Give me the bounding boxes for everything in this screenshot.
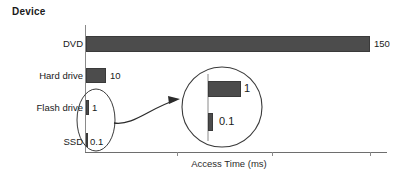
magnified-bar-flash-drive [208,81,241,97]
x-axis-tick [370,152,371,156]
x-axis-tick [272,152,273,156]
y-axis-title: Device [12,6,45,17]
category-label-ssd: SSD [63,136,83,147]
x-axis-tick [177,152,178,156]
x-axis-title: Access Time (ms) [0,158,402,169]
callout-arrow-head [168,96,180,104]
value-label-ssd: 0.1 [90,136,103,147]
callout-arrow-line [114,100,176,123]
y-axis-line [85,25,86,153]
magnified-bar-ssd [208,113,213,131]
bar-flash-drive [86,100,89,115]
bar-ssd [86,133,88,147]
x-axis-title-text: Access Time (ms) [191,158,266,169]
x-axis-line [85,152,387,153]
magnified-value-ssd: 0.1 [219,115,234,127]
category-label-hard-drive: Hard drive [39,70,83,81]
value-label-dvd: 150 [374,38,390,49]
bar-hard-drive [86,68,106,83]
magnified-value-flash-drive: 1 [244,82,250,94]
bar-dvd [86,36,370,52]
chart-figure: Device DVD Hard drive Flash drive SSD 15… [0,0,402,188]
magnified-circle [182,67,262,147]
value-label-flash-drive: 1 [92,102,97,113]
category-label-flash-drive: Flash drive [37,102,83,113]
value-label-hard-drive: 10 [110,70,121,81]
category-label-dvd: DVD [63,38,83,49]
